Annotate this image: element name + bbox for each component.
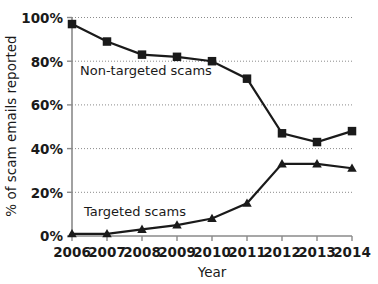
x-tick-label-2006: 2006 [53,244,91,260]
x-tick-label-2012: 2012 [263,244,301,260]
x-tick-label-2007: 2007 [88,244,126,260]
data-point-marker [313,138,322,147]
y-axis-title: % of scam emails reported [3,35,19,216]
y-tick-labels: 100% 80% 60% 40% 20% 0% [21,10,63,244]
series-markers-targeted [67,159,357,237]
y-tick-label-40: 40% [31,141,64,157]
series-markers-non-targeted [68,20,357,146]
chart-plot-area: 100% 80% 60% 40% 20% 0% 2006 2007 2008 2… [0,0,378,284]
data-point-marker [278,129,287,138]
data-point-marker [68,20,77,29]
x-axis-title: Year [197,264,227,280]
data-point-marker [103,37,112,46]
y-tick-label-60: 60% [31,97,64,113]
data-point-marker [138,50,147,59]
data-point-marker [243,74,252,83]
series-line-non-targeted [72,24,352,142]
y-tick-label-80: 80% [31,54,64,70]
y-tick-label-0: 0% [40,228,63,244]
y-tick-label-100: 100% [21,10,63,26]
x-tick-label-2010: 2010 [193,244,231,260]
x-tick-label-2014: 2014 [333,244,371,260]
x-tick-labels: 2006 2007 2008 2009 2010 2011 2012 2013 … [53,244,371,260]
data-point-marker [348,127,357,135]
x-tick-label-2011: 2011 [228,244,266,260]
data-point-marker [173,53,182,62]
y-tick-label-20: 20% [31,185,64,201]
series-line-targeted [72,164,352,234]
scam-email-line-chart: 100% 80% 60% 40% 20% 0% 2006 2007 2008 2… [0,0,378,284]
series-label-targeted: Targeted scams [83,204,186,219]
series-label-non-targeted: Non-targeted scams [80,63,212,78]
x-tick-label-2013: 2013 [298,244,336,260]
x-tick-label-2008: 2008 [123,244,161,260]
x-tick-label-2009: 2009 [158,244,196,260]
